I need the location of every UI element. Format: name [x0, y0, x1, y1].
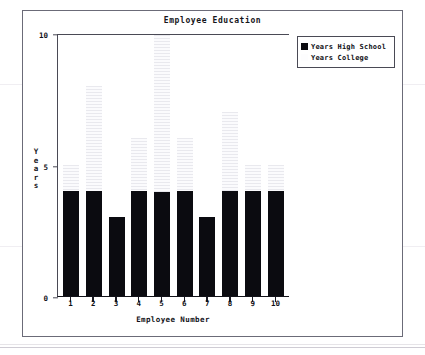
bar-column [109, 35, 125, 296]
bar-segment-college [177, 138, 193, 191]
x-axis-ticklabel: 7 [199, 299, 215, 313]
bar-column [154, 35, 170, 296]
y-axis-ticklabel: 5 [43, 162, 48, 171]
y-axis-label: Y e a r s [30, 148, 42, 191]
y-axis-ticklabel: 10 [39, 31, 48, 40]
bar-column [199, 35, 215, 296]
x-axis-label: Employee Number [57, 315, 289, 324]
legend-swatch-icon [301, 43, 308, 50]
bar-segment-high-school [109, 217, 125, 296]
legend-item-college: Years College [301, 52, 391, 63]
x-axis-ticklabel: 6 [176, 299, 192, 313]
bar-segment-college [86, 86, 102, 191]
bar-segment-high-school [131, 191, 147, 296]
x-axis-ticklabel: 1 [62, 299, 78, 313]
bar-segment-college [245, 165, 261, 191]
x-axis-ticklabel: 2 [85, 299, 101, 313]
bar-segment-high-school [268, 191, 284, 296]
legend-label: Years College [311, 54, 368, 62]
bar-segment-high-school [199, 217, 215, 296]
bar-segment-college [63, 165, 79, 191]
x-axis-ticklabel: 8 [222, 299, 238, 313]
x-axis-ticklabel: 9 [245, 299, 261, 313]
bar-column [86, 35, 102, 296]
y-axis-tickmark [53, 34, 58, 35]
legend-swatch-icon [301, 54, 308, 61]
y-axis-tickmark [53, 166, 58, 167]
bar-segment-high-school [177, 191, 193, 296]
y-axis-ticklabel: 0 [43, 294, 48, 303]
x-axis-ticklabel: 4 [131, 299, 147, 313]
plot-area: 0510 [57, 34, 289, 297]
x-axis-ticklabels: 12345678910 [57, 299, 289, 313]
legend-item-high-school: Years High School [301, 41, 391, 52]
bar-segment-high-school [63, 191, 79, 296]
bar-column [131, 35, 147, 296]
bar-segment-college [131, 138, 147, 191]
page-rule-bottom [0, 347, 425, 348]
x-axis-ticklabel: 3 [108, 299, 124, 313]
bar-column [222, 35, 238, 296]
page-rule-lower [0, 344, 425, 345]
bar-column [177, 35, 193, 296]
bar-segment-college [268, 165, 284, 191]
bar-segment-high-school [222, 191, 238, 296]
chart-screenshot: Employee Education Y e a r s 0510 123456… [0, 0, 425, 355]
x-axis-ticklabel: 5 [154, 299, 170, 313]
bar-segment-college [154, 35, 170, 192]
bar-segment-high-school [86, 191, 102, 296]
chart-legend: Years High School Years College [297, 36, 395, 68]
bar-segment-high-school [245, 191, 261, 296]
bar-column [245, 35, 261, 296]
bar-column [268, 35, 284, 296]
bar-segment-high-school [154, 192, 170, 296]
legend-label: Years High School [311, 43, 386, 51]
y-axis-label-char: s [34, 181, 39, 190]
bar-group [58, 35, 289, 296]
bar-column [63, 35, 79, 296]
x-axis-ticklabel: 10 [268, 299, 284, 313]
chart-title: Employee Education [0, 16, 425, 25]
bar-segment-college [222, 112, 238, 191]
